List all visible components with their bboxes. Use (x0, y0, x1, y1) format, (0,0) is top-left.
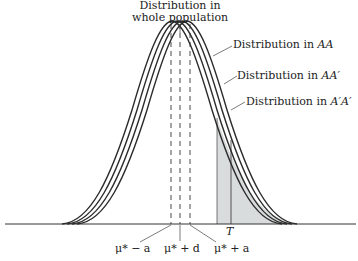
threshold-label: T (226, 226, 233, 238)
curve-aap (72, 21, 292, 224)
axis-label-mu-minus-a: μ* − a (115, 243, 150, 255)
axis-label-mu-plus-d: μ* + d (164, 243, 200, 255)
label-distribution-aa: Distribution in AA (233, 39, 333, 51)
label-distribution-aap: Distribution in AA′ (237, 70, 340, 82)
genotype-apap: A′A′ (331, 95, 352, 108)
curve-whole (67, 21, 287, 224)
leader-apap (231, 102, 245, 110)
genotype-aap: AA′ (322, 69, 340, 82)
label-distribution-apap: Distribution in A′A′ (246, 96, 351, 108)
title-line2: whole population (132, 12, 228, 24)
distribution-curves (62, 21, 297, 224)
curve-apap (77, 21, 297, 224)
leader-aa (213, 46, 232, 56)
title-label: Distribution in whole population (132, 0, 228, 24)
axis-label-mu-plus-a: μ* + a (214, 243, 249, 255)
leader-aap (224, 76, 237, 84)
mean-lines (171, 24, 190, 224)
leader-mu-minus-a (140, 225, 171, 242)
genotype-aa: AA (318, 38, 334, 51)
leader-mu-plus-a (190, 225, 216, 242)
